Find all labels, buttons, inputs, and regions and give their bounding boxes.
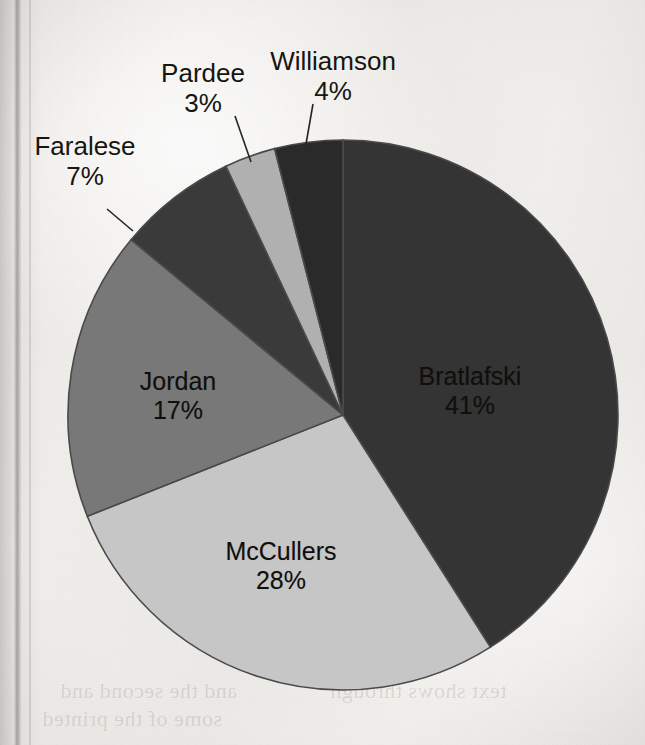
pie-slice-label-name: Jordan [140,367,216,395]
pie-slice-label-percent: 7% [0,161,195,191]
scanned-page: and the second and some of the printed t… [0,0,645,745]
pie-slice-label: McCullers28% [171,537,391,595]
pie-slice-label-percent: 41% [360,391,580,420]
pie-slice-label-percent: 4% [223,76,443,106]
pie-slice-label-name: Williamson [270,46,396,76]
pie-slice-label: Faralese7% [0,131,195,191]
pie-slice-label-name: Faralese [34,131,135,161]
pie-slice-label: Bratlafski41% [360,362,580,420]
pie-slice-label-percent: 28% [171,566,391,595]
pie-slice-label-name: Bratlafski [419,362,522,390]
pie-slice-label-name: McCullers [225,537,336,565]
pie-slice-label: Williamson4% [223,46,443,106]
leader-line [235,116,251,162]
pie-slice-label-percent: 17% [68,396,288,425]
pie-chart: Bratlafski41%McCullers28%Jordan17%Farale… [0,0,645,745]
leader-line [107,209,133,231]
pie-slice-label: Jordan17% [68,367,288,425]
